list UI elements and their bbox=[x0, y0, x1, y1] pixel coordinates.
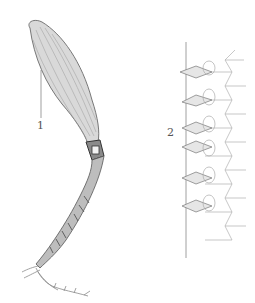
tarsus bbox=[22, 266, 90, 296]
figure-label-2: 2 bbox=[167, 126, 174, 139]
leg-illustration bbox=[22, 20, 104, 296]
spine bbox=[180, 61, 215, 78]
spine bbox=[182, 167, 215, 184]
spine bbox=[182, 89, 215, 106]
spine bbox=[182, 140, 215, 156]
spine bbox=[182, 195, 215, 212]
spine-row-illustration bbox=[180, 42, 246, 258]
tibia bbox=[36, 156, 104, 268]
illustration-canvas bbox=[0, 0, 255, 303]
figure-plate: 1 2 bbox=[0, 0, 255, 303]
figure-label-1: 1 bbox=[37, 119, 44, 132]
spine bbox=[182, 116, 215, 134]
